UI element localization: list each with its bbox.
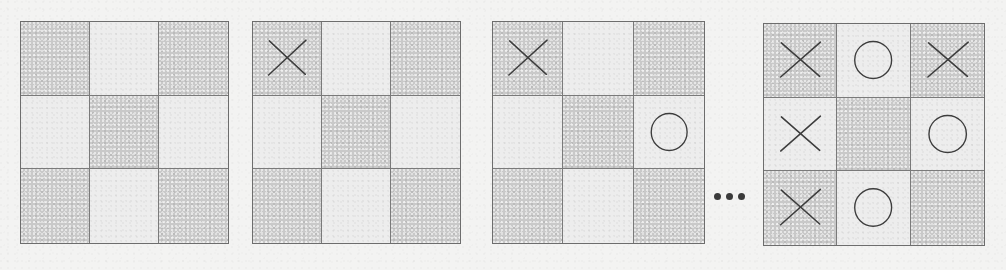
board-cell[interactable] (90, 96, 159, 170)
board-cell[interactable] (322, 22, 391, 96)
board-cell[interactable] (837, 24, 910, 98)
tic-tac-toe-progression-figure (0, 0, 1006, 270)
mark-x-icon (253, 22, 321, 95)
board-cell[interactable] (837, 98, 910, 172)
board-cell[interactable] (391, 169, 460, 243)
board-cell[interactable] (764, 24, 837, 98)
mark-x-icon (764, 171, 836, 245)
board-2 (252, 21, 461, 244)
board-cell[interactable] (253, 169, 322, 243)
board-cell[interactable] (634, 169, 704, 243)
board-cell[interactable] (322, 96, 391, 170)
mark-x-icon (911, 24, 984, 97)
board-cell[interactable] (90, 22, 159, 96)
board-cell[interactable] (911, 98, 984, 172)
board-cell[interactable] (764, 171, 837, 245)
mark-x-icon (764, 24, 836, 97)
board-cell[interactable] (391, 22, 460, 96)
mark-o-icon (911, 98, 984, 171)
board-1 (20, 21, 229, 244)
board-cell[interactable] (911, 24, 984, 98)
board-cell[interactable] (90, 169, 159, 243)
board-cell[interactable] (563, 96, 633, 170)
mark-x-icon (764, 98, 836, 171)
board-cell[interactable] (634, 22, 704, 96)
mark-o-icon (634, 96, 704, 169)
board-cell[interactable] (391, 96, 460, 170)
ellipsis-dot (738, 193, 745, 200)
mark-o-icon (837, 24, 909, 97)
board-cell[interactable] (837, 171, 910, 245)
board-cell[interactable] (563, 169, 633, 243)
board-cell[interactable] (911, 171, 984, 245)
board-cell[interactable] (493, 22, 563, 96)
board-cell[interactable] (253, 96, 322, 170)
board-cell[interactable] (253, 22, 322, 96)
board-4 (763, 23, 985, 246)
board-cell[interactable] (159, 22, 228, 96)
ellipsis-omitted-states (714, 193, 745, 200)
board-cell[interactable] (21, 96, 90, 170)
board-cell[interactable] (493, 169, 563, 243)
board-3 (492, 21, 705, 244)
mark-x-icon (493, 22, 562, 95)
board-cell[interactable] (21, 169, 90, 243)
board-cell[interactable] (764, 98, 837, 172)
mark-o-icon (837, 171, 909, 245)
board-cell[interactable] (21, 22, 90, 96)
board-cell[interactable] (493, 96, 563, 170)
board-cell[interactable] (159, 96, 228, 170)
board-cell[interactable] (563, 22, 633, 96)
board-cell[interactable] (322, 169, 391, 243)
board-cell[interactable] (159, 169, 228, 243)
ellipsis-dot (726, 193, 733, 200)
ellipsis-dot (714, 193, 721, 200)
board-cell[interactable] (634, 96, 704, 170)
